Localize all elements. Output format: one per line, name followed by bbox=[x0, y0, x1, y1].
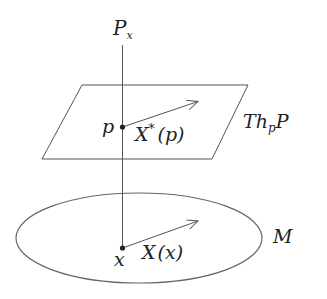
manifold-ellipse bbox=[16, 193, 262, 283]
lifted-vector-label: X*(p) bbox=[133, 122, 185, 145]
horizontal-plane bbox=[42, 85, 248, 159]
diagram-canvas: Px p X*(p) ThpP M x X(x) bbox=[0, 0, 327, 299]
point-x-label: x bbox=[114, 248, 125, 270]
manifold-label: M bbox=[272, 225, 293, 247]
point-p-dot bbox=[120, 124, 125, 129]
diagram-svg: Px p X*(p) ThpP M x X(x) bbox=[0, 0, 327, 299]
fiber-label: Px bbox=[112, 16, 133, 42]
point-p-label: p bbox=[102, 115, 114, 137]
base-vector-label: X(x) bbox=[140, 241, 183, 263]
horizontal-plane-label: ThpP bbox=[243, 110, 290, 135]
